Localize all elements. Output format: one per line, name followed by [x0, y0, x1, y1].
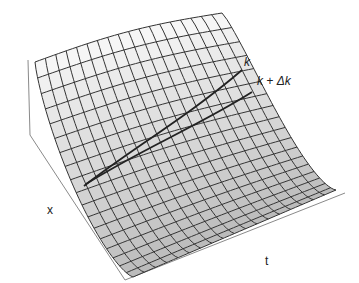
curve-label-k-plus-delta-k: k + Δk: [257, 74, 291, 88]
surface-plot: [0, 0, 359, 283]
surface-figure: k k + Δk x t: [0, 0, 359, 283]
surface-mesh: [35, 13, 336, 277]
axis-label-t: t: [265, 254, 268, 268]
axis-label-x: x: [47, 203, 53, 217]
curve-label-k: k: [244, 55, 250, 69]
